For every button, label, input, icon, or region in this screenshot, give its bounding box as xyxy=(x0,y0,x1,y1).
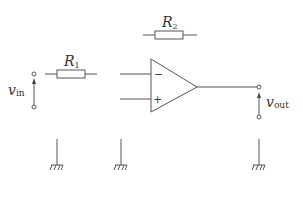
inverting-sign: − xyxy=(154,68,163,81)
op-amp: − + xyxy=(120,59,197,112)
output-port: vout xyxy=(197,85,289,119)
output-voltage-arrow-icon xyxy=(257,92,261,98)
resistor-r1-body xyxy=(57,70,85,78)
input-terminal-bottom xyxy=(32,105,36,109)
ground-2 xyxy=(114,139,127,170)
ground-3 xyxy=(252,139,265,170)
resistor-r1: R1 xyxy=(45,53,97,78)
input-terminal-top xyxy=(32,72,36,76)
circuit-diagram: vin R1 R2 − + vout xyxy=(0,0,303,200)
resistor-r2: R2 xyxy=(143,14,197,39)
noninverting-sign: + xyxy=(153,93,162,106)
output-terminal-bottom xyxy=(257,115,261,119)
resistor-r2-body xyxy=(155,31,183,39)
output-voltage-label: vout xyxy=(266,94,289,110)
input-port: vin xyxy=(8,72,36,109)
input-voltage-label: vin xyxy=(8,82,25,98)
output-terminal-top xyxy=(257,85,261,89)
resistor-r2-label: R2 xyxy=(161,14,178,31)
resistor-r1-label: R1 xyxy=(63,53,80,70)
input-voltage-arrow-icon xyxy=(32,78,36,84)
ground-1 xyxy=(50,139,63,170)
